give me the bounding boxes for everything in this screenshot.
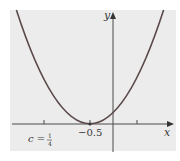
parabola-chart: y x −0.5 c = 1 4: [0, 0, 180, 161]
vertex-point: [88, 122, 91, 125]
vertex-tick-label: −0.5: [78, 127, 102, 138]
x-axis-label: x: [164, 126, 171, 139]
y-axis-label: y: [103, 9, 111, 22]
c-fraction-numerator: 1: [48, 132, 52, 139]
c-value-label: c =: [28, 133, 45, 144]
c-fraction-denominator: 4: [48, 140, 52, 147]
